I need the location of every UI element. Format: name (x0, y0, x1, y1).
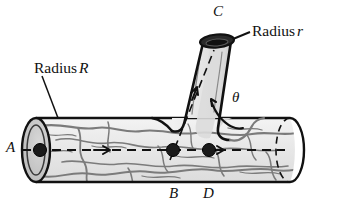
label-point-C: C (213, 4, 223, 19)
point-b-dot (167, 144, 180, 157)
label-radius-r-word: Radius (252, 22, 295, 39)
label-radius-R: RadiusR (34, 60, 89, 76)
radius-R-leader-line (42, 76, 58, 118)
label-radius-R-word: Radius (34, 59, 77, 76)
main-pipe (22, 118, 304, 188)
point-d-dot (203, 144, 216, 157)
label-radius-r: Radiusr (252, 23, 303, 39)
label-point-D: D (203, 186, 214, 201)
label-angle-theta: θ (232, 90, 239, 105)
label-point-A: A (6, 140, 15, 155)
label-point-B: B (169, 186, 178, 201)
point-a-dot (34, 144, 47, 157)
radius-r-leader-line (233, 32, 250, 39)
label-radius-R-symbol: R (77, 59, 88, 76)
label-radius-r-symbol: r (295, 22, 303, 39)
figure-container: RadiusR Radiusr A B C D θ (0, 0, 339, 210)
